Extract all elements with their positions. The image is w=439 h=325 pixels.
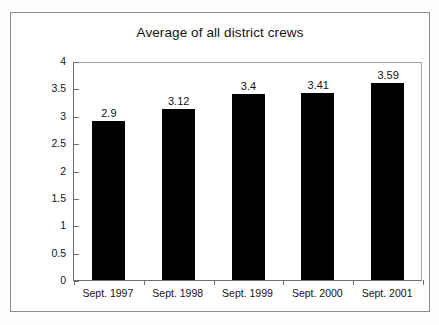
y-tick-label: 2 [26,165,66,177]
bar[interactable] [371,83,404,280]
y-tick-label: 4 [26,55,66,67]
x-tick-mark [283,280,284,285]
y-tick-label: 1 [26,219,66,231]
x-axis-category-label: Sept. 1997 [73,287,143,299]
bar-group: 3.41 [283,63,353,280]
bar-value-label: 3.4 [214,80,284,92]
bar-group: 3.59 [353,63,423,280]
x-tick-mark [423,280,424,285]
y-tick-label: 0 [26,274,66,286]
bar[interactable] [232,94,265,280]
bar-value-label: 3.59 [353,69,423,81]
bar-group: 3.12 [144,63,214,280]
y-tick-label: 1.5 [26,192,66,204]
bar[interactable] [301,93,334,280]
x-tick-mark [74,280,75,285]
plot-area: Productivity Units 00.511.522.533.54 2.9… [73,62,422,281]
bar[interactable] [162,109,195,280]
y-tick-label: 3.5 [26,82,66,94]
bar-group: 2.9 [74,63,144,280]
x-axis-category-label: Sept. 2000 [282,287,352,299]
bar-group: 3.4 [214,63,284,280]
y-tick-label: 3 [26,110,66,122]
x-tick-mark [353,280,354,285]
x-axis-category-label: Sept. 1998 [143,287,213,299]
chart-figure: Average of all district crews Productivi… [0,0,439,325]
bar-value-label: 3.41 [283,79,353,91]
y-tick-label: 0.5 [26,247,66,259]
x-tick-mark [144,280,145,285]
bar[interactable] [92,121,125,280]
y-tick-label: 2.5 [26,137,66,149]
x-tick-mark [214,280,215,285]
bar-value-label: 2.9 [74,107,144,119]
bar-value-label: 3.12 [144,95,214,107]
x-axis-category-label: Sept. 1999 [213,287,283,299]
x-axis-category-label: Sept. 2001 [352,287,422,299]
chart-title: Average of all district crews [10,25,430,40]
